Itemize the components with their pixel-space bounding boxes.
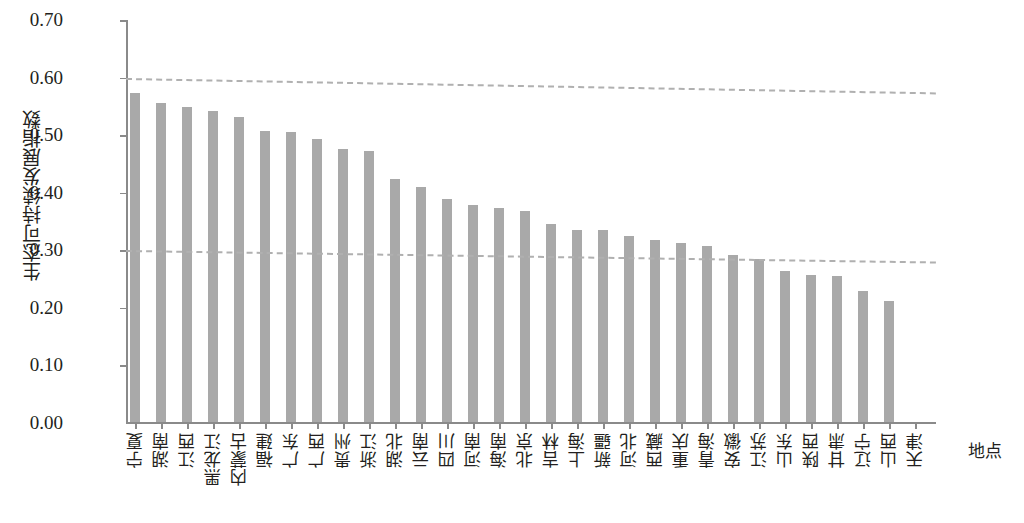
x-axis-title: 地点 (968, 437, 1002, 462)
x-tick-label: 安徽 (724, 432, 742, 468)
y-tick-label: 0.20 (3, 297, 63, 319)
x-tick-label: 河北 (620, 432, 638, 468)
x-tick-label: 天津 (906, 432, 924, 468)
x-tick-label: 北京 (516, 432, 534, 468)
x-tick-label: 宁夏 (126, 432, 144, 468)
x-tick-label: 山东 (776, 432, 794, 468)
y-tick-label: 0.40 (3, 182, 63, 204)
x-tick-label: 江苏 (750, 432, 768, 468)
y-tick-label: 0.50 (3, 124, 63, 146)
x-tick-label: 山西 (880, 432, 898, 468)
x-axis-tick-labels: 宁夏湖南江西黑龙江内蒙古福建广东广西贵州浙江湖北云南四川河南海南北京吉林上海新疆… (126, 0, 1024, 523)
x-tick-label: 海南 (490, 432, 508, 468)
x-tick-label: 内蒙古 (230, 432, 248, 486)
x-tick-label: 青海 (698, 432, 716, 468)
x-tick-label: 湖南 (152, 432, 170, 468)
x-tick-label: 广东 (282, 432, 300, 468)
x-tick-label: 四川 (438, 432, 456, 468)
y-tick-label: 0.10 (3, 354, 63, 376)
bar-chart: 生态可持续发展指数 0.700.600.500.400.300.200.100.… (0, 0, 1024, 523)
x-tick-label: 河南 (464, 432, 482, 468)
x-tick-label: 福建 (256, 432, 274, 468)
x-tick-label: 湖北 (386, 432, 404, 468)
y-axis-tick-labels: 0.700.600.500.400.300.200.100.00 (5, 0, 63, 523)
x-tick-label: 云南 (412, 432, 430, 468)
y-tick-label: 0.70 (3, 9, 63, 31)
x-tick-label: 新疆 (594, 432, 612, 468)
x-tick-label: 陕西 (802, 432, 820, 468)
x-tick-label: 广西 (308, 432, 326, 468)
x-tick-label: 吉林 (542, 432, 560, 468)
x-tick-label: 黑龙江 (204, 432, 222, 486)
x-tick-label: 浙江 (360, 432, 378, 468)
y-tick-label: 0.30 (3, 239, 63, 261)
x-tick-label: 西藏 (646, 432, 664, 468)
x-tick-label: 江西 (178, 432, 196, 468)
x-tick-label: 上海 (568, 432, 586, 468)
x-tick-label: 甘肃 (828, 432, 846, 468)
y-tick-label: 0.60 (3, 67, 63, 89)
y-tick-label: 0.00 (3, 412, 63, 434)
x-tick-label: 辽宁 (854, 432, 872, 468)
x-tick-label: 重庆 (672, 432, 690, 468)
x-tick-label: 贵州 (334, 432, 352, 468)
